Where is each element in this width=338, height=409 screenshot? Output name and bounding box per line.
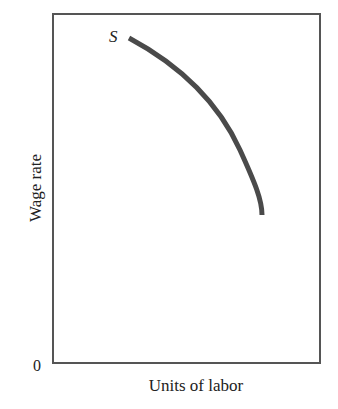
- curve-label-s: S: [109, 27, 118, 47]
- supply-curve-plot: [0, 0, 338, 409]
- x-axis-label-text: Units of labor: [149, 376, 243, 396]
- origin-label: 0: [33, 357, 41, 375]
- supply-curve-s: [129, 38, 262, 215]
- x-axis-label: Units of labor: [0, 376, 338, 396]
- y-axis-label: Wage rate: [26, 154, 46, 222]
